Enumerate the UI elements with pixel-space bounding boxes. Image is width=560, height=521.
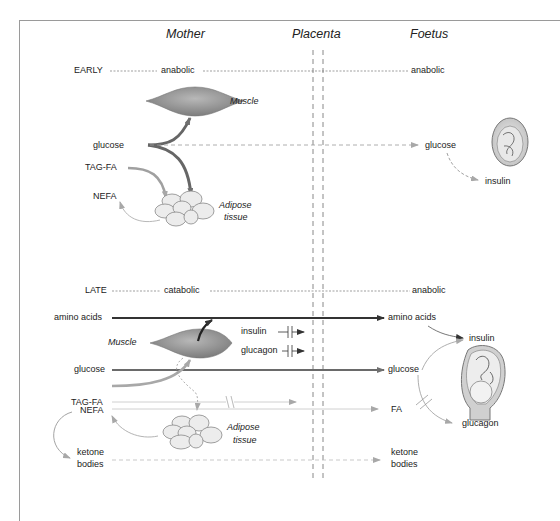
early-adipose-label-1: Adipose xyxy=(219,200,252,211)
early-glucose-label: glucose xyxy=(93,140,124,151)
late-foetus-insulin: insulin xyxy=(469,333,495,344)
placenta-insulin-label: insulin xyxy=(241,326,267,337)
late-nefa-label: NEFA xyxy=(80,405,104,416)
placenta-boundary xyxy=(313,50,323,478)
adipose-tissue-icon xyxy=(163,415,222,449)
adipose-tissue-icon xyxy=(155,191,214,226)
late-foetus-glucagon: glucagon xyxy=(462,418,499,429)
late-foetus-ketone: ketone xyxy=(391,447,418,458)
early-muscle-label: Muscle xyxy=(230,96,259,107)
late-stage-label: LATE xyxy=(85,285,107,296)
early-fetus-icon xyxy=(492,118,528,166)
placenta-glucagon-label: glucagon xyxy=(241,345,278,356)
early-foetus-insulin: insulin xyxy=(485,176,511,187)
late-foetus-bodies: bodies xyxy=(391,459,418,470)
early-foetus-glucose: glucose xyxy=(425,140,456,151)
late-mother-state: catabolic xyxy=(164,285,200,296)
early-tagfa-label: TAG-FA xyxy=(85,162,117,173)
late-fetus-icon xyxy=(461,346,505,420)
early-nefa-label: NEFA xyxy=(93,191,117,202)
late-glucose-label: glucose xyxy=(74,364,105,375)
late-bodies-label: bodies xyxy=(77,459,104,470)
late-muscle-label: Muscle xyxy=(108,337,137,348)
late-foetus-glucose: glucose xyxy=(388,364,419,375)
early-foetus-state: anabolic xyxy=(411,65,445,76)
header-mother: Mother xyxy=(166,27,205,41)
muscle-icon xyxy=(150,329,232,358)
late-amino-acids-label: amino acids xyxy=(54,312,102,323)
early-adipose-label-2: tissue xyxy=(224,212,248,223)
header-placenta: Placenta xyxy=(292,27,341,41)
early-mother-state: anabolic xyxy=(161,65,195,76)
header-foetus: Foetus xyxy=(410,27,448,41)
late-foetus-state: anabolic xyxy=(412,285,446,296)
early-stage-label: EARLY xyxy=(74,65,103,76)
late-foetus-fa: FA xyxy=(391,404,402,415)
late-foetus-amino-acids: amino acids xyxy=(388,312,436,323)
late-adipose-label-2: tissue xyxy=(233,435,257,446)
late-ketone-label: ketone xyxy=(77,447,104,458)
late-adipose-label-1: Adipose xyxy=(227,422,260,433)
